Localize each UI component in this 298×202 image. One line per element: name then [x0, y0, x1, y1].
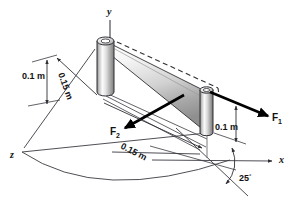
left-cylinder-body — [97, 41, 114, 96]
angle-value-label: 25° — [239, 173, 252, 183]
x-axis-line — [152, 160, 272, 161]
left-height-dimension-group: 0.1 m — [22, 55, 60, 106]
right-height-dimension-group: 0.1 m — [214, 106, 246, 144]
right-cylinder-body — [200, 90, 213, 136]
figure-canvas: x z y — [0, 0, 298, 202]
inclined-panel — [112, 45, 209, 132]
right-height-ext-bottom — [214, 133, 246, 144]
angle-dimension-group: 25° — [226, 148, 252, 184]
z-axis-label: z — [9, 149, 14, 160]
left-depth-label: 0.15 m — [56, 71, 75, 101]
sector-arc — [22, 152, 230, 180]
force-f2-label: F2 — [110, 126, 120, 139]
rotated-line — [176, 128, 248, 196]
force-f2-group: F2 — [110, 95, 184, 139]
y-axis-label: y — [106, 6, 112, 17]
ground-span-label: 0.15 m — [119, 141, 149, 163]
force-f1-group: F1 — [210, 92, 282, 125]
force-f2-arrow — [125, 95, 184, 128]
left-cylinder — [97, 37, 114, 96]
z-axis-group: z — [9, 49, 95, 160]
right-cylinder — [200, 87, 213, 136]
panel-surface — [112, 45, 209, 132]
statics-figure: x z y — [0, 0, 298, 202]
ground-sector — [22, 133, 230, 180]
dashed-drop-edge — [218, 88, 219, 95]
base-construction-line — [150, 146, 236, 170]
left-height-ext-top — [32, 55, 57, 62]
right-cylinder-bore — [203, 89, 209, 92]
right-height-label: 0.1 m — [215, 122, 238, 132]
angle-arc-arrow — [226, 148, 235, 184]
rotated-ground-line — [176, 128, 248, 196]
x-axis-label: x — [278, 154, 284, 165]
force-f1-arrow — [210, 92, 268, 116]
force-f1-label: F1 — [272, 112, 282, 125]
z-axis-line — [24, 49, 95, 148]
left-cylinder-bore — [101, 39, 110, 43]
left-height-label: 0.1 m — [22, 71, 45, 81]
